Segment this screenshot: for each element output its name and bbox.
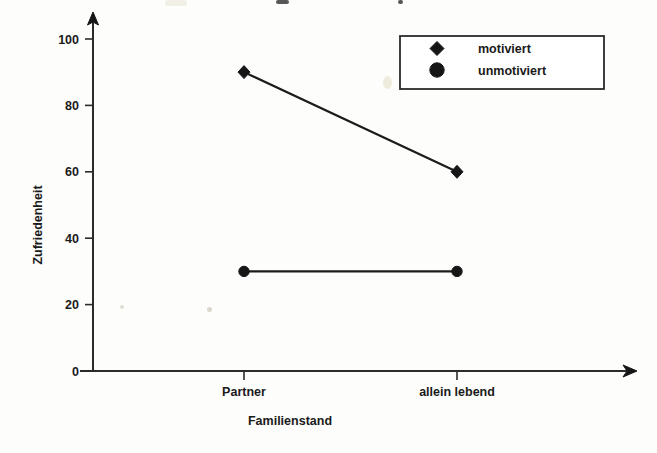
interaction-plot: 0 20 40 60 80 100 Zufriedenheit Partner … [0,0,657,453]
y-tick-label-80: 80 [65,99,79,113]
x-axis [80,365,637,377]
x-tick-label-partner: Partner [222,385,266,399]
y-axis [88,12,99,371]
x-axis-title: Familienstand [248,414,332,428]
figure-canvas: 0 20 40 60 80 100 Zufriedenheit Partner … [0,0,657,453]
y-tick-label-0: 0 [72,365,79,379]
data-point-unmotiviert-allein-lebend [452,266,462,276]
legend: motiviert unmotiviert [400,36,604,89]
y-tick-label-100: 100 [58,33,79,47]
x-tick-label-allein-lebend: allein lebend [419,385,495,399]
y-tick-label-60: 60 [65,165,79,179]
y-axis-ticks [85,39,93,371]
legend-label-motiviert: motiviert [478,42,532,56]
data-point-motiviert-partner [238,66,250,79]
legend-label-unmotiviert: unmotiviert [478,64,547,78]
y-tick-label-20: 20 [65,298,79,312]
series-unmotiviert [239,266,462,276]
y-tick-label-40: 40 [65,232,79,246]
data-point-unmotiviert-partner [239,266,249,276]
y-axis-title: Zufriedenheit [31,185,45,265]
data-point-motiviert-allein-lebend [451,165,463,178]
circle-marker-icon [430,63,444,77]
x-axis-ticks [244,371,457,380]
